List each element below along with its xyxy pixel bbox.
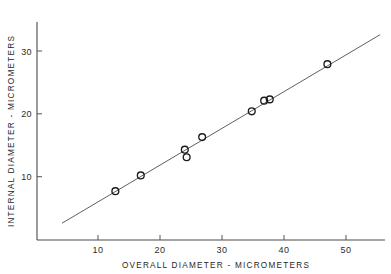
x-tick-label-50: 50 <box>341 245 352 255</box>
plot-background <box>0 0 391 274</box>
plot-canvas: 30 20 10 10 20 30 40 50 OVERALL DIAMETER… <box>0 0 391 274</box>
x-tick-label-30: 30 <box>217 245 228 255</box>
x-tick-label-10: 10 <box>93 245 104 255</box>
x-tick-label-40: 40 <box>279 245 290 255</box>
scatter-plot-figure: 30 20 10 10 20 30 40 50 OVERALL DIAMETER… <box>0 0 391 274</box>
x-tick-label-20: 20 <box>155 245 166 255</box>
y-tick-label-20: 20 <box>21 109 32 119</box>
y-axis-title: INTERNAL DIAMETER - MICROMETERS <box>7 35 16 227</box>
x-axis-title: OVERALL DIAMETER - MICROMETERS <box>122 261 310 270</box>
y-tick-label-30: 30 <box>21 47 32 57</box>
y-tick-label-10: 10 <box>21 172 32 182</box>
